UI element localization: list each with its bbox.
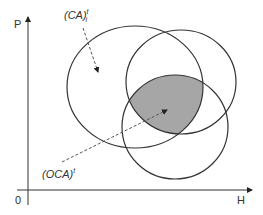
ca-label: (CA)ti: [64, 8, 87, 23]
ca-pointer-arrow: [83, 28, 98, 72]
y-axis-label: P: [14, 18, 21, 30]
oca-label: (OCA)t: [42, 167, 75, 180]
origin-label: 0: [15, 194, 21, 206]
diagram-canvas: [0, 0, 263, 215]
x-axis-label: H: [237, 194, 245, 206]
